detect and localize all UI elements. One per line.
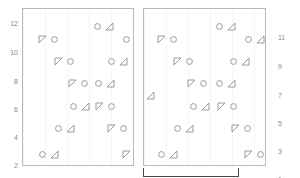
triangle-marker-icon [121, 149, 132, 160]
triangle-marker-icon [145, 90, 156, 101]
glyph-pair [121, 34, 134, 46]
circle-marker-icon [79, 78, 90, 89]
axis-tick-left-2: 2 [4, 162, 18, 169]
triangle-marker-icon [94, 101, 105, 112]
triangle-marker-icon [226, 21, 237, 32]
glyph-pair [188, 101, 212, 113]
circle-marker-icon [242, 123, 253, 134]
glyph-pair [186, 78, 210, 90]
circle-marker-icon [188, 101, 199, 112]
circle-marker-icon [118, 123, 129, 134]
glyph-pair [156, 149, 180, 161]
axis-tick-right-7: 7 [278, 92, 292, 99]
circle-marker-icon [156, 149, 167, 160]
triangle-marker-icon [243, 149, 254, 160]
glyph-pair [106, 56, 130, 68]
circle-marker-icon [65, 56, 76, 67]
circle-marker-icon [214, 21, 225, 32]
glyph-pair [172, 56, 196, 68]
triangle-marker-icon [106, 123, 117, 134]
triangle-marker-icon [172, 56, 183, 67]
axis-tick-left-8: 8 [4, 78, 18, 85]
glyph-pair [216, 101, 240, 113]
triangle-marker-icon [184, 123, 195, 134]
circle-marker-icon [143, 90, 144, 101]
triangle-marker-icon [65, 123, 76, 134]
triangle-marker-icon [226, 78, 237, 89]
circle-marker-icon [92, 21, 103, 32]
circle-marker-icon [255, 149, 266, 160]
circle-marker-icon [172, 123, 183, 134]
glyph-pair [143, 90, 157, 102]
axis-tick-right-5: 5 [278, 120, 292, 127]
triangle-marker-icon [53, 56, 64, 67]
axis-tick-left-6: 6 [4, 106, 18, 113]
axis-tick-right-9: 9 [278, 63, 292, 70]
glyph-pair [214, 78, 238, 90]
right-panel [143, 8, 266, 166]
triangle-marker-icon [105, 78, 116, 89]
circle-marker-icon [168, 34, 179, 45]
glyph-pair [106, 123, 130, 135]
glyph-pair [68, 101, 92, 113]
triangle-marker-icon [255, 34, 266, 45]
circle-marker-icon [121, 34, 132, 45]
glyph-pair [156, 34, 180, 46]
circle-marker-icon [214, 78, 225, 89]
glyph-pair [172, 123, 196, 135]
triangle-marker-icon [186, 78, 197, 89]
glyph-pair [230, 123, 254, 135]
glyph-pair [93, 78, 117, 90]
circle-marker-icon [93, 78, 104, 89]
circle-marker-icon [243, 34, 254, 45]
circle-marker-icon [49, 34, 60, 45]
glyph-pair [53, 56, 77, 68]
axis-tick-left-10: 10 [4, 49, 18, 56]
triangle-marker-icon [37, 34, 48, 45]
glyph-pair [67, 78, 91, 90]
circle-marker-icon [53, 123, 64, 134]
axis-tick-left-12: 12 [4, 20, 18, 27]
triangle-marker-icon [133, 34, 134, 45]
triangle-marker-icon [49, 149, 60, 160]
glyph-pair [37, 149, 61, 161]
triangle-marker-icon [67, 78, 78, 89]
triangle-marker-icon [168, 149, 179, 160]
axis-tick-right-11: 11 [278, 34, 292, 41]
circle-marker-icon [106, 56, 117, 67]
triangle-marker-icon [200, 101, 211, 112]
triangle-marker-icon [240, 56, 251, 67]
circle-marker-icon [184, 56, 195, 67]
glyph-pair [94, 101, 118, 113]
circle-marker-icon [68, 101, 79, 112]
triangle-marker-icon [156, 34, 167, 45]
glyph-pair [53, 123, 77, 135]
axis-tick-left-4: 4 [4, 134, 18, 141]
glyph-pair [37, 34, 61, 46]
circle-marker-icon [106, 101, 117, 112]
circle-marker-icon [198, 78, 209, 89]
glyph-pair [243, 34, 266, 46]
glyph-pair [121, 149, 134, 161]
glyph-pair [228, 56, 252, 68]
triangle-marker-icon [118, 56, 129, 67]
bottom-bracket [143, 168, 239, 177]
axis-tick-right-1: 1 [278, 176, 292, 178]
glyph-pair [214, 21, 238, 33]
triangle-marker-icon [216, 101, 227, 112]
circle-marker-icon [133, 149, 134, 160]
axis-tick-right-3: 3 [278, 148, 292, 155]
triangle-marker-icon [104, 21, 115, 32]
circle-marker-icon [37, 149, 48, 160]
left-panel [22, 8, 134, 166]
circle-marker-icon [228, 101, 239, 112]
circle-marker-icon [228, 56, 239, 67]
triangle-marker-icon [80, 101, 91, 112]
figure-root: 12108642 1197531 [0, 0, 300, 178]
glyph-pair [92, 21, 116, 33]
triangle-marker-icon [230, 123, 241, 134]
glyph-pair [243, 149, 266, 161]
